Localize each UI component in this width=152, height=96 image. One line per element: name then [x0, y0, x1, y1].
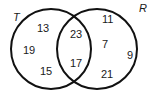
t-only-value: 13 — [37, 22, 49, 34]
set-r-circle — [57, 9, 137, 89]
t-only-value: 15 — [40, 65, 52, 77]
set-t-label: T — [13, 11, 21, 23]
intersection-value: 17 — [70, 57, 82, 69]
t-only-value: 19 — [23, 44, 35, 56]
r-only-value: 11 — [102, 13, 113, 25]
r-only-value: 21 — [101, 68, 113, 80]
r-only-value: 9 — [127, 49, 133, 61]
intersection-value: 23 — [70, 28, 82, 40]
set-r-label: R — [139, 2, 147, 14]
r-only-value: 7 — [102, 38, 108, 50]
venn-diagram: T R 13 19 15 23 17 11 7 9 21 — [0, 0, 152, 96]
